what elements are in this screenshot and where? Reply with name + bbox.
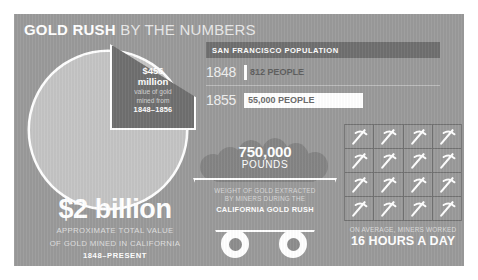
pie-slice-unit: million [116, 77, 190, 88]
pickaxe-icon [408, 175, 428, 195]
sf-population-value: 55,000 PEOPLE [244, 95, 315, 105]
cart-caption-line2: BY MINERS DURING THE [206, 195, 324, 203]
pickaxe-cell [374, 197, 403, 221]
gold-weight-number: 750,000 [198, 144, 332, 160]
sf-population-panel: SAN FRANCISCO POPULATION 1848 812 PEOPLE… [206, 42, 440, 108]
pickaxe-pictogram-grid [344, 124, 462, 221]
title-light: BY THE NUMBERS [116, 21, 256, 38]
infographic-panel: GOLD RUSH BY THE NUMBERS $456 million va… [14, 14, 464, 266]
total-value-years: 1848–PRESENT [24, 251, 206, 260]
sf-population-row-1855: 1855 55,000 PEOPLE [206, 92, 440, 108]
total-value-caption-line2: OF GOLD MINED IN CALIFORNIA [24, 239, 206, 249]
pickaxe-cell [345, 197, 374, 221]
gold-rush-infographic: GOLD RUSH BY THE NUMBERS $456 million va… [0, 0, 478, 280]
pie-slice-caption-line2: mined from [116, 97, 190, 104]
pickaxe-icon [437, 175, 457, 195]
hours-worked-caption-line: ON AVERAGE, MINERS WORKED [344, 226, 462, 233]
pickaxe-icon [378, 151, 398, 171]
sf-population-value: 812 PEOPLE [247, 67, 304, 77]
pickaxe-cell [345, 125, 374, 149]
pickaxe-icon [378, 127, 398, 147]
total-value-amount: $2 billion [24, 196, 206, 223]
gold-weight-unit: POUNDS [198, 160, 332, 171]
pie-slice-label: $456 million value of gold mined from 18… [116, 66, 190, 114]
pickaxe-cell [433, 173, 462, 197]
pickaxe-icon [408, 151, 428, 171]
pickaxe-icon [378, 175, 398, 195]
pie-slice-years: 1848–1856 [116, 106, 190, 114]
pickaxe-icon [349, 175, 369, 195]
pickaxe-icon [437, 199, 457, 219]
sf-population-row-1848: 1848 812 PEOPLE [206, 64, 440, 80]
pickaxe-cell [404, 149, 433, 173]
pickaxe-icon [349, 151, 369, 171]
sf-population-year-label: 1848 [206, 64, 244, 80]
title-strong: GOLD RUSH [24, 21, 116, 38]
pickaxe-cell [433, 125, 462, 149]
hours-worked-value: 16 HOURS A DAY [344, 234, 462, 248]
gold-value-pie-chart: $456 million value of gold mined from 18… [24, 44, 199, 216]
sf-population-year-label: 1855 [206, 92, 244, 108]
cart-caption-line1: WEIGHT OF GOLD EXTRACTED [206, 187, 324, 195]
pickaxe-cell [345, 173, 374, 197]
pickaxe-cell [433, 149, 462, 173]
mine-cart-graphic: 750,000 POUNDS WEIGHT OF GOLD EXTRACTED … [190, 138, 340, 266]
pickaxe-icon [408, 199, 428, 219]
pickaxe-cell [404, 125, 433, 149]
pickaxe-cell [374, 125, 403, 149]
hours-worked-section: ON AVERAGE, MINERS WORKED 16 HOURS A DAY [344, 124, 464, 248]
cart-wheel-right [279, 230, 307, 258]
sf-row-divider [206, 85, 440, 86]
pickaxe-icon [378, 199, 398, 219]
pickaxe-cell [345, 149, 374, 173]
pickaxe-cell [404, 173, 433, 197]
pie-slice-caption-line1: value of gold [116, 88, 190, 95]
cart-caption-line3: CALIFORNIA GOLD RUSH [206, 205, 324, 215]
pickaxe-icon [408, 127, 428, 147]
page-title: GOLD RUSH BY THE NUMBERS [24, 21, 256, 39]
pickaxe-icon [437, 151, 457, 171]
total-value-block: $2 billion APPROXIMATE TOTAL VALUE OF GO… [24, 196, 206, 260]
pickaxe-cell [374, 173, 403, 197]
cart-wheel-left [221, 230, 249, 258]
sf-population-bar: 55,000 PEOPLE [244, 93, 363, 108]
pickaxe-cell [374, 149, 403, 173]
pickaxe-cell [404, 197, 433, 221]
total-value-caption-line1: APPROXIMATE TOTAL VALUE [24, 226, 206, 236]
sf-population-header: SAN FRANCISCO POPULATION [206, 42, 440, 58]
cart-caption: WEIGHT OF GOLD EXTRACTED BY MINERS DURIN… [206, 187, 324, 214]
pickaxe-icon [437, 127, 457, 147]
gold-weight-label: 750,000 POUNDS [198, 144, 332, 170]
pickaxe-cell [433, 197, 462, 221]
pickaxe-icon [349, 199, 369, 219]
pickaxe-icon [349, 127, 369, 147]
hours-worked-caption: ON AVERAGE, MINERS WORKED 16 HOURS A DAY [344, 226, 462, 248]
